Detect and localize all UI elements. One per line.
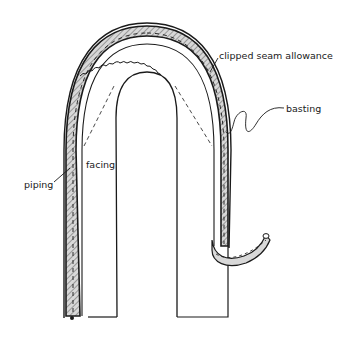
label-piping: piping bbox=[24, 180, 53, 190]
facing-guide-right bbox=[175, 86, 212, 146]
leader-basting bbox=[226, 108, 284, 134]
sewing-diagram: clipped seam allowance basting facing pi… bbox=[0, 0, 349, 346]
label-basting: basting bbox=[286, 104, 321, 114]
label-clipped-seam-allowance: clipped seam allowance bbox=[219, 51, 333, 61]
neckline-cutout bbox=[116, 72, 177, 317]
label-facing: facing bbox=[86, 160, 115, 170]
